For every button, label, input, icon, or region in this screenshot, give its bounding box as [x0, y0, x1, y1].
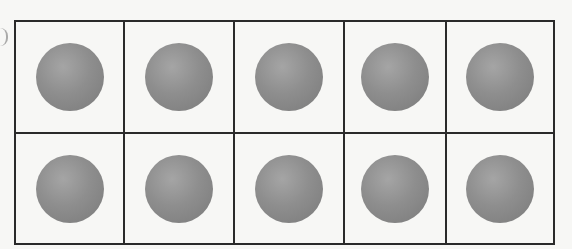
frame-cell: [447, 22, 553, 134]
counter-circle-icon: [361, 43, 429, 111]
counter-circle-icon: [36, 155, 104, 223]
edge-mark: [0, 28, 8, 46]
frame-cell: [235, 134, 345, 243]
frame-cell: [447, 134, 553, 243]
counter-circle-icon: [466, 155, 534, 223]
counter-circle-icon: [466, 43, 534, 111]
counter-circle-icon: [361, 155, 429, 223]
frame-cell: [16, 22, 125, 134]
counter-circle-icon: [36, 43, 104, 111]
counter-circle-icon: [255, 43, 323, 111]
ten-frame: [14, 20, 555, 245]
frame-cell: [125, 22, 235, 134]
counter-circle-icon: [145, 155, 213, 223]
frame-cell: [345, 134, 447, 243]
counter-circle-icon: [255, 155, 323, 223]
frame-cell: [16, 134, 125, 243]
frame-cell: [235, 22, 345, 134]
frame-cell: [345, 22, 447, 134]
frame-cell: [125, 134, 235, 243]
counter-circle-icon: [145, 43, 213, 111]
